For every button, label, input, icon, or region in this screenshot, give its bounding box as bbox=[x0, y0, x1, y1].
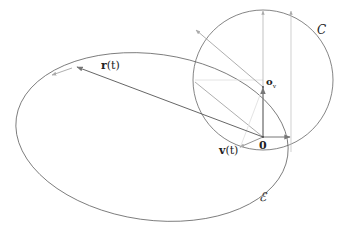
tangent-line-arrow bbox=[196, 30, 263, 87]
origin-point bbox=[262, 136, 264, 138]
label-o-subscript: v bbox=[273, 82, 276, 89]
diagram-canvas bbox=[0, 0, 345, 231]
label-o: o bbox=[266, 76, 273, 87]
label-position-vector: r(t) bbox=[101, 60, 120, 71]
ov-point bbox=[262, 86, 264, 88]
position-vector-arrow bbox=[77, 67, 263, 137]
label-origin: 0 bbox=[259, 140, 267, 151]
label-ov: ov bbox=[266, 77, 276, 89]
label-r-arg: (t) bbox=[107, 59, 120, 72]
label-ellipse-e: ℰ bbox=[259, 191, 266, 203]
label-v-arg: (t) bbox=[225, 144, 238, 157]
label-circle-c: C bbox=[317, 24, 326, 36]
label-velocity-vector: v(t) bbox=[219, 145, 238, 156]
ellipse-tangent-arrow bbox=[52, 68, 72, 75]
ellipse-e bbox=[5, 36, 299, 231]
